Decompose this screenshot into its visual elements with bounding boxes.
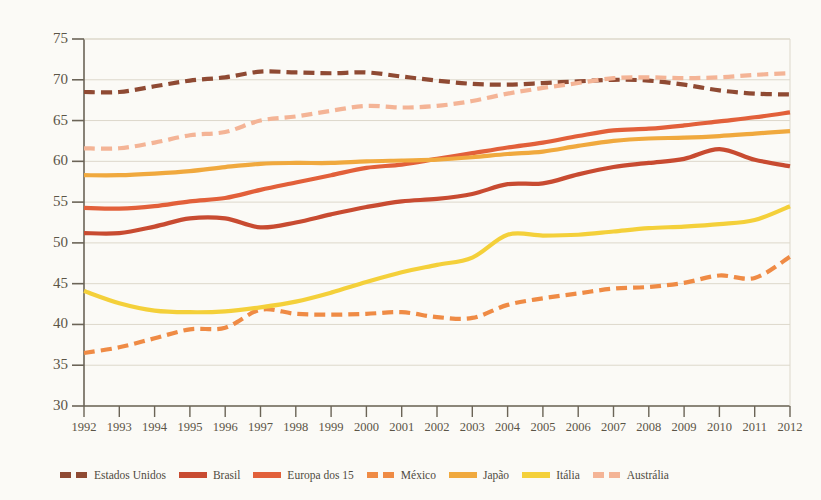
legend-label: México [401,469,436,481]
legend-item[interactable]: Europa dos 15 [253,469,353,481]
y-axis-tick-label: 30 [34,397,68,414]
legend-item[interactable]: Japão [449,469,509,481]
series-line-itália [84,206,790,312]
legend-swatch-icon [367,472,395,478]
legend-item[interactable]: México [367,469,436,481]
y-axis-tick-label: 45 [34,275,68,292]
legend-swatch-icon [253,472,281,478]
y-axis-tick-label: 40 [34,315,68,332]
series-lines [84,71,790,353]
y-axis-tick-label: 70 [34,71,68,88]
y-axis-tick-label: 50 [34,234,68,251]
legend-item[interactable]: Estados Unidos [60,469,166,481]
y-axis-tick-label: 65 [34,112,68,129]
legend-label: Europa dos 15 [287,469,353,481]
gridlines [84,39,790,406]
legend-label: Brasil [213,469,240,481]
legend-item[interactable]: Austrália [593,469,669,481]
legend-swatch-icon [522,472,550,478]
legend-swatch-icon [179,472,207,478]
axis-lines [84,39,790,406]
legend-item[interactable]: Brasil [179,469,240,481]
series-line-japão [84,131,790,175]
legend-swatch-icon [449,472,477,478]
legend-swatch-icon [593,472,621,478]
legend-label: Japão [483,469,509,481]
series-line-estados-unidos [84,71,790,94]
y-axis-tick-label: 55 [34,193,68,210]
y-axis-tick-label: 35 [34,356,68,373]
legend-swatch-icon [60,472,88,478]
legend-label: Austrália [627,469,669,481]
y-axis-tick-label: 60 [34,152,68,169]
legend-label: Itália [556,469,580,481]
legend-item[interactable]: Itália [522,469,580,481]
series-line-méxico [84,257,790,353]
chart-legend: Estados UnidosBrasilEuropa dos 15MéxicoJ… [60,462,800,488]
line-chart-figure: 75706560555045403530 1992199319941995199… [0,0,821,500]
x-axis-tick-label: 2012 [768,420,812,435]
legend-label: Estados Unidos [94,469,166,481]
y-axis-tick-label: 75 [34,30,68,47]
